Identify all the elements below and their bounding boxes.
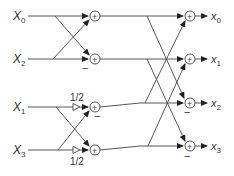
adder-s2-r1: + <box>185 54 195 65</box>
adder-s2-r0: + <box>185 11 195 22</box>
svg-text:+: + <box>187 55 192 65</box>
svg-text:+: + <box>92 12 97 22</box>
adder-s1-r1: + <box>90 54 100 65</box>
svg-text:+: + <box>187 12 192 22</box>
output-label-x2: x2 <box>210 97 222 112</box>
minus-sign-s2-r3: − <box>184 150 190 162</box>
gain-label-x3: 1/2 <box>70 156 84 167</box>
stage1-butterfly-even <box>28 16 89 59</box>
input-label-x2: X2 <box>12 52 26 68</box>
output-arrows <box>195 16 207 146</box>
minus-sign-s1-r2: − <box>94 110 100 122</box>
adder-s1-r3: + <box>90 145 100 156</box>
input-label-x3: X3 <box>12 143 26 159</box>
svg-text:+: + <box>92 55 97 65</box>
butterfly-flow-diagram: X0 X2 X1 X3 1/2 1/2 + + + + − − <box>0 0 234 176</box>
gain-triangle-icon <box>73 104 80 111</box>
minus-sign-s2-r2: − <box>184 106 190 118</box>
adder-s1-r0: + <box>90 11 100 22</box>
stage1-butterfly-odd <box>28 104 89 154</box>
output-label-x0: x0 <box>210 10 222 25</box>
gain-triangle-icon <box>73 147 80 154</box>
input-label-x0: X0 <box>12 9 26 25</box>
gain-label-x1: 1/2 <box>70 92 84 103</box>
stage2-butterfly <box>100 16 185 150</box>
output-label-x3: x3 <box>210 140 222 155</box>
output-label-x1: x1 <box>210 53 222 68</box>
minus-sign-s1-r1: − <box>82 62 88 74</box>
svg-text:+: + <box>92 146 97 156</box>
input-label-x1: X1 <box>12 100 26 116</box>
